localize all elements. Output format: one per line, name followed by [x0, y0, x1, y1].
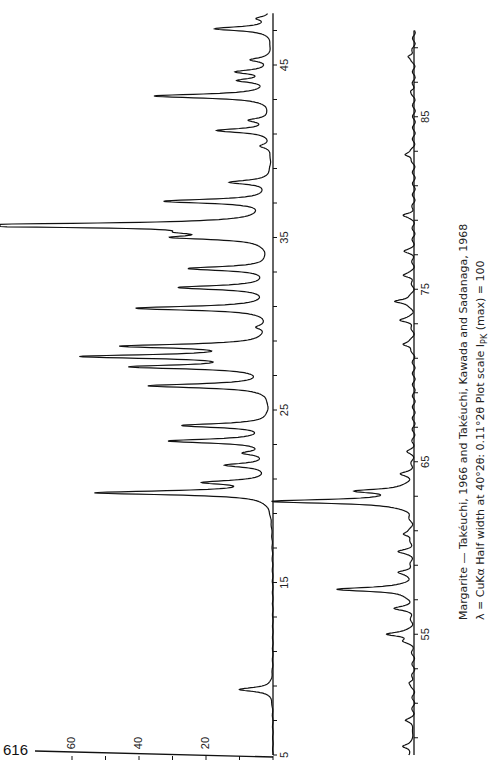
svg-text:35: 35: [278, 231, 290, 243]
chart-caption-line2: λ = CuKα Half width at 40°2θ: 0.11°2θ Pl…: [474, 261, 489, 620]
svg-text:65: 65: [419, 456, 431, 468]
svg-text:85: 85: [419, 111, 431, 123]
chart-axes: [35, 13, 418, 760]
chart-tick-labels: 51525354555657585204060: [65, 59, 431, 758]
chart-caption-line1: Margarite — Takéuchi, 1966 and Takéuchi,…: [457, 224, 470, 620]
svg-text:45: 45: [278, 59, 290, 71]
svg-text:15: 15: [278, 576, 290, 588]
svg-text:60: 60: [65, 737, 77, 749]
svg-text:20: 20: [199, 737, 211, 749]
svg-text:55: 55: [419, 628, 431, 640]
svg-text:5: 5: [278, 752, 290, 758]
chart-traces: [0, 14, 415, 755]
svg-text:75: 75: [419, 283, 431, 295]
svg-text:40: 40: [132, 737, 144, 749]
svg-text:25: 25: [278, 404, 290, 416]
